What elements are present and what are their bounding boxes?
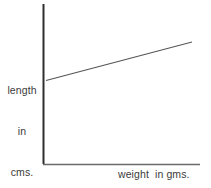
y-axis-label-line-in: in	[2, 126, 42, 137]
y-axis-label-line-length: length	[2, 85, 42, 96]
data-line-series-1	[46, 42, 192, 81]
y-axis-label-line-cms: cms.	[2, 167, 42, 178]
x-axis-label: weight in gms.	[118, 169, 210, 180]
graph-figure: length vs weight length in cms. weight i…	[0, 0, 211, 188]
y-axis-label: length vs weight length in cms.	[2, 52, 42, 188]
